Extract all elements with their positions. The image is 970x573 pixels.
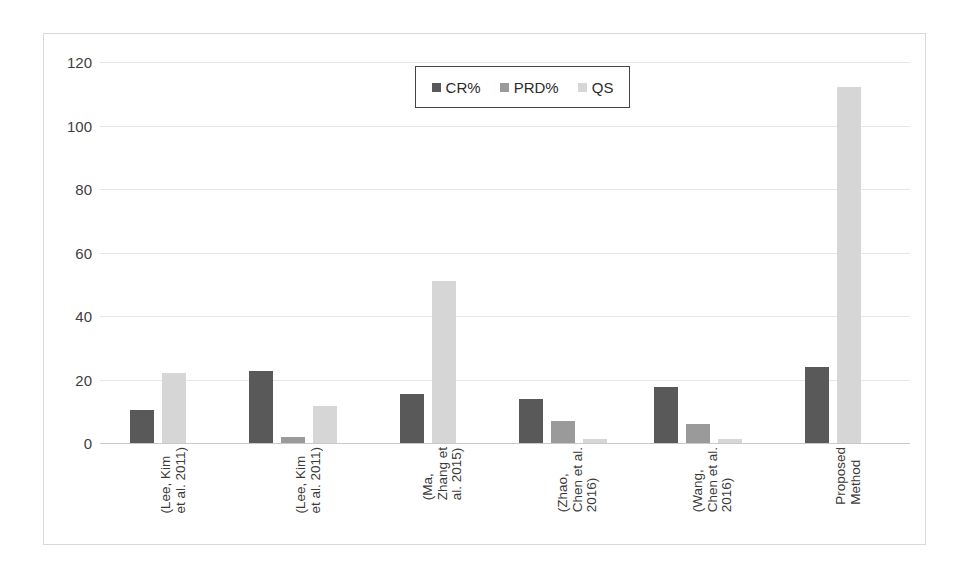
bar-prd bbox=[551, 421, 575, 443]
legend-item-prd[interactable]: PRD% bbox=[500, 79, 559, 96]
bar-prd bbox=[686, 424, 710, 443]
y-tick-label-40: 40 bbox=[75, 309, 92, 324]
legend-label: CR% bbox=[446, 79, 481, 96]
legend-item-cr[interactable]: CR% bbox=[432, 79, 481, 96]
y-tick-label-20: 20 bbox=[75, 372, 92, 387]
y-tick-label-100: 100 bbox=[67, 118, 92, 133]
bar-qs bbox=[162, 373, 186, 443]
bar-cr bbox=[805, 367, 829, 443]
bar-cr bbox=[249, 371, 273, 443]
x-category-label: (Wang, Chen et al. 2016) bbox=[691, 447, 736, 512]
bar-qs bbox=[313, 406, 337, 443]
bar-group bbox=[370, 62, 505, 443]
bar-qs bbox=[718, 439, 742, 443]
gridline-0 bbox=[100, 443, 910, 444]
bar-chart-figure: 020406080100120 (Lee, Kim et al. 2011)(L… bbox=[0, 0, 970, 573]
x-category-label: (Zhao, Chen et al. 2016) bbox=[556, 447, 601, 512]
plot-area bbox=[100, 62, 910, 443]
bar-group bbox=[775, 62, 910, 443]
bar-qs bbox=[583, 439, 607, 443]
legend-item-qs[interactable]: QS bbox=[578, 79, 614, 96]
chart-legend: CR%PRD%QS bbox=[415, 66, 630, 108]
legend-label: QS bbox=[592, 79, 614, 96]
legend-label: PRD% bbox=[514, 79, 559, 96]
x-category-label: Proposed Method bbox=[834, 447, 864, 505]
bar-group bbox=[100, 62, 235, 443]
bar-cr bbox=[400, 394, 424, 443]
y-tick-label-0: 0 bbox=[84, 436, 92, 451]
bar-qs bbox=[837, 87, 861, 443]
bar-cr bbox=[130, 410, 154, 443]
y-tick-label-60: 60 bbox=[75, 245, 92, 260]
bar-group bbox=[235, 62, 370, 443]
bar-group bbox=[505, 62, 640, 443]
x-axis-category-labels: (Lee, Kim et al. 2011)(Lee, Kim et al. 2… bbox=[100, 447, 910, 547]
bar-group bbox=[640, 62, 775, 443]
x-category-label: (Ma, Zhang et al. 2015) bbox=[421, 447, 466, 500]
y-tick-label-120: 120 bbox=[67, 55, 92, 70]
bar-prd bbox=[281, 437, 305, 443]
y-axis-tick-labels: 020406080100120 bbox=[48, 62, 92, 443]
bar-cr bbox=[519, 399, 543, 443]
x-category-label: (Lee, Kim et al. 2011) bbox=[294, 447, 324, 514]
legend-swatch-icon bbox=[578, 83, 587, 92]
bar-cr bbox=[654, 387, 678, 443]
bar-qs bbox=[432, 281, 456, 443]
legend-swatch-icon bbox=[432, 83, 441, 92]
y-tick-label-80: 80 bbox=[75, 182, 92, 197]
legend-swatch-icon bbox=[500, 83, 509, 92]
x-category-label: (Lee, Kim et al. 2011) bbox=[159, 447, 189, 514]
